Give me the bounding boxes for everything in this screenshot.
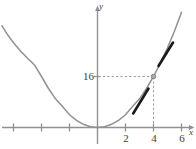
graph-figure: y x 16 2 4 6 xyxy=(0,0,196,149)
y-axis-label: y xyxy=(99,2,103,11)
x-tick-label-6: 6 xyxy=(173,133,191,144)
y-value-label-16: 16 xyxy=(74,71,94,82)
x-tick-label-2: 2 xyxy=(117,133,135,144)
tangent-segment-upper xyxy=(159,43,174,67)
x-tick-label-4: 4 xyxy=(145,133,163,144)
plot-canvas xyxy=(0,0,196,149)
point-of-tangency-marker xyxy=(151,74,156,79)
tangent-segment-lower xyxy=(133,89,148,114)
